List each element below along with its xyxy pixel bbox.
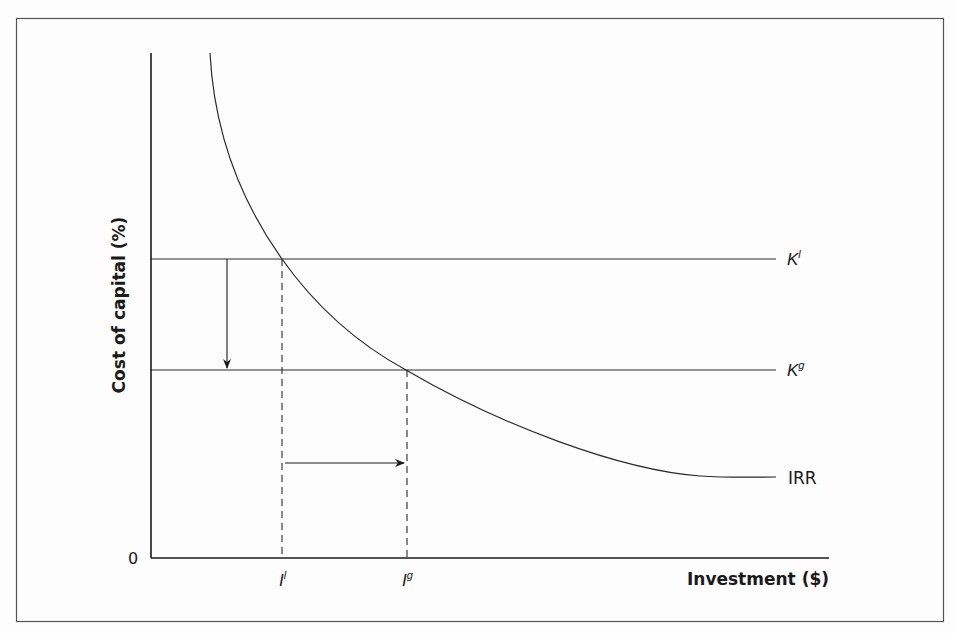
k-global-label-base: K [787, 361, 799, 380]
i-global-sup: g [407, 569, 414, 581]
k-local-label-sup: l [798, 248, 801, 260]
i-local-tick-label: Il [279, 569, 287, 590]
k-global-label-sup: g [798, 359, 805, 371]
irr-label: IRR [788, 468, 817, 488]
figure-frame [17, 19, 944, 622]
y-axis-label: Cost of capital (%) [109, 217, 129, 394]
origin-label: 0 [128, 549, 138, 568]
k-global-label: Kg [787, 359, 805, 380]
irr-curve [210, 53, 776, 477]
chart-svg: Cost of capital (%) 0 Kl Kg IRR Il Ig In… [0, 0, 955, 633]
i-local-sup: l [284, 569, 287, 581]
x-axis-label: Investment ($) [687, 569, 829, 589]
k-local-label: Kl [787, 248, 801, 269]
i-global-tick-label: Ig [402, 569, 414, 590]
k-local-label-base: K [787, 250, 799, 269]
chart-figure: Cost of capital (%) 0 Kl Kg IRR Il Ig In… [0, 0, 955, 633]
